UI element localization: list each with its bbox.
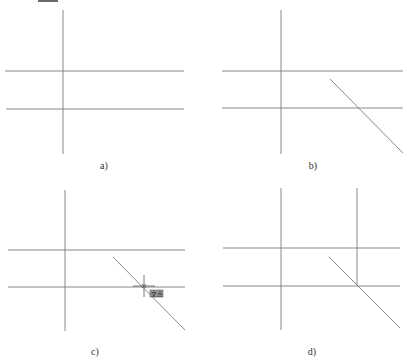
drawing-canvas: 交点 bbox=[0, 0, 408, 363]
panel-b bbox=[222, 10, 403, 154]
caption-a: a) bbox=[100, 160, 108, 171]
panel-d bbox=[223, 188, 400, 330]
construction-line bbox=[329, 257, 400, 328]
snap-tooltip-label: 交点 bbox=[151, 290, 163, 298]
construction-line bbox=[330, 79, 403, 153]
construction-line bbox=[113, 257, 185, 330]
panel-a bbox=[5, 10, 184, 154]
caption-d: d) bbox=[308, 346, 316, 357]
panel-c: 交点 bbox=[8, 190, 185, 331]
caption-c: c) bbox=[91, 346, 99, 357]
caption-b: b) bbox=[309, 160, 317, 171]
